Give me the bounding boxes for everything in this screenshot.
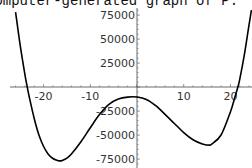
x-tick-label: -20 xyxy=(35,90,53,103)
y-tick-label: 25000 xyxy=(100,57,135,70)
x-tick-label: 10 xyxy=(177,90,191,103)
y-tick-label: 50000 xyxy=(100,33,135,46)
y-tick-label: -75000 xyxy=(96,153,135,166)
chart-plot: -20-101020750005000025000-25000-50000-75… xyxy=(0,0,252,168)
x-tick-label: -10 xyxy=(81,90,99,103)
y-tick-label: 75000 xyxy=(100,9,135,22)
y-tick-label: -50000 xyxy=(96,129,135,142)
axes xyxy=(10,8,252,168)
tick-labels: -20-101020750005000025000-25000-50000-75… xyxy=(35,9,238,166)
